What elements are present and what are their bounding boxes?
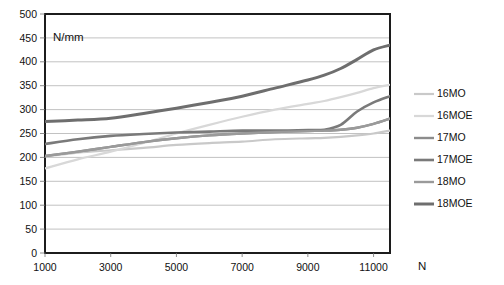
y-axis-tick-label: 350 — [19, 79, 37, 91]
y-axis-tick-label: 0 — [31, 247, 37, 259]
x-axis-tick-label: 7000 — [230, 261, 254, 273]
y-axis-tick-label: 100 — [19, 199, 37, 211]
series-line-18moe — [45, 45, 390, 121]
x-axis-tick-label: 5000 — [165, 261, 189, 273]
gridlines-group — [45, 38, 390, 229]
y-axis-tick-label: 50 — [25, 223, 37, 235]
line-chart: 050100150200250300350400450500 100030005… — [0, 0, 504, 285]
x-axis-tick-label: 3000 — [99, 261, 123, 273]
x-axis-unit-label: N — [418, 260, 426, 272]
y-axis-tick-label: 450 — [19, 32, 37, 44]
legend-label-17moe[interactable]: 17MOE — [437, 153, 473, 165]
y-axis-unit-label: N/mm — [53, 31, 84, 43]
legend-label-16mo[interactable]: 16MO — [437, 87, 466, 99]
y-axis-tick-labels: 050100150200250300350400450500 — [19, 8, 37, 259]
chart-container: 050100150200250300350400450500 100030005… — [0, 0, 504, 285]
x-axis-tick-label: 11000 — [359, 261, 388, 273]
x-axis-tick-label: 9000 — [296, 261, 320, 273]
y-axis-tick-label: 200 — [19, 151, 37, 163]
x-axis-tick-label: 1000 — [33, 261, 57, 273]
x-axis-tick-labels: 1000300050007000900011000 — [33, 261, 388, 273]
legend-label-18moe[interactable]: 18MOE — [437, 197, 473, 209]
legend: 16MO16MOE17MO17MOE18MO18MOE — [414, 87, 473, 209]
y-axis-tick-label: 500 — [19, 8, 37, 20]
series-group — [45, 45, 390, 168]
y-axis-tick-label: 250 — [19, 127, 37, 139]
legend-label-16moe[interactable]: 16MOE — [437, 109, 473, 121]
y-axis-tick-label: 300 — [19, 103, 37, 115]
y-axis-tick-label: 400 — [19, 55, 37, 67]
legend-label-17mo[interactable]: 17MO — [437, 131, 466, 143]
y-axis-tick-label: 150 — [19, 175, 37, 187]
legend-label-18mo[interactable]: 18MO — [437, 175, 466, 187]
